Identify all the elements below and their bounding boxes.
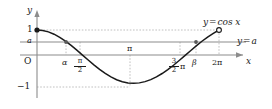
line-equation-label: y = a: [237, 37, 257, 46]
x-tick-three-half-pi-numerator: 3: [169, 58, 179, 65]
x-axis-label: x: [246, 57, 251, 66]
x-tick-half-pi: π 2: [74, 58, 86, 74]
origin-label: O: [24, 57, 31, 66]
marker-intersection-beta: [194, 40, 198, 44]
y-tick-a: a: [27, 37, 32, 45]
x-tick-half-pi-numerator: π: [74, 58, 86, 65]
x-tick-half-pi-denominator: 2: [74, 67, 86, 74]
curve-equation-label: y = cos x: [203, 18, 240, 27]
cosine-function-figure: y x O 1 a −1 α π 2 π 3 2 π β 2π y = cos …: [0, 0, 272, 109]
marker-start-point: [34, 27, 39, 32]
x-tick-two-pi: 2π: [212, 59, 222, 67]
y-axis-label: y: [27, 6, 32, 15]
x-tick-alpha: α: [62, 59, 67, 67]
marker-end-point: [217, 28, 222, 33]
x-tick-beta: β: [192, 59, 197, 67]
y-tick-one: 1: [27, 25, 33, 34]
marker-intersection-alpha: [64, 40, 68, 44]
y-axis: [34, 10, 39, 98]
x-tick-three-half-pi: 3 2 π: [169, 58, 179, 74]
x-tick-pi: π: [127, 45, 132, 53]
x-tick-three-half-pi-suffix: π: [180, 63, 185, 71]
y-tick-minus-one: −1: [17, 82, 30, 91]
cosine-curve: [37, 30, 219, 83]
x-axis: [20, 52, 243, 57]
x-tick-three-half-pi-denominator: 2: [169, 67, 179, 74]
